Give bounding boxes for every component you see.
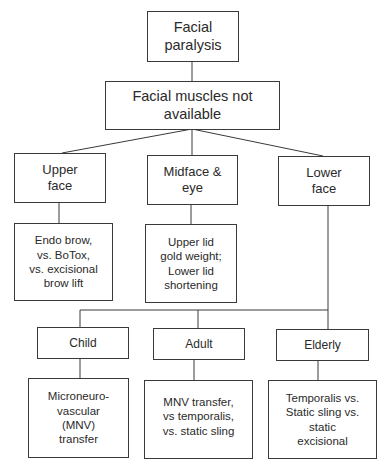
node-line: Temporalis vs. <box>286 391 360 405</box>
node-line: Lower <box>306 165 341 181</box>
node-child-treatment: Microneuro- vascular (MNV) transfer <box>28 378 129 458</box>
node-line: paralysis <box>164 37 221 55</box>
node-line: Midface & <box>164 164 222 180</box>
node-lower-face: Lower face <box>278 156 370 206</box>
node-line: vascular <box>48 404 109 418</box>
node-adult-treatment: MNV transfer, vs temporalis, vs. static … <box>144 380 253 459</box>
node-line: face <box>42 178 77 194</box>
node-line: shortening <box>160 278 221 292</box>
node-line: (MNV) <box>48 418 109 432</box>
node-line: Static sling vs. <box>286 405 360 419</box>
node-facial-paralysis: Facial paralysis <box>147 11 239 62</box>
node-line: face <box>306 181 341 197</box>
node-line: transfer <box>48 432 109 446</box>
node-line: gold weight; <box>160 249 221 263</box>
node-label: Child <box>69 336 96 351</box>
node-line: Upper <box>42 162 77 178</box>
node-line: MNV transfer, <box>163 395 235 409</box>
node-elderly-treatment: Temporalis vs. Static sling vs. static e… <box>268 380 377 459</box>
node-line: vs. static sling <box>163 424 235 438</box>
node-upper-face-treatment: Endo brow, vs. BoTox, vs. excisional bro… <box>14 223 113 301</box>
node-line: Facial <box>164 19 221 37</box>
node-line: vs temporalis, <box>163 409 235 423</box>
node-midface-eye: Midface & eye <box>147 155 238 205</box>
node-facial-muscles-not-available: Facial muscles not available <box>105 81 280 130</box>
node-midface-treatment: Upper lid gold weight; Lower lid shorten… <box>145 224 237 303</box>
node-line: Upper lid <box>160 235 221 249</box>
node-line: vs. BoTox, <box>29 248 97 262</box>
node-upper-face: Upper face <box>14 153 106 203</box>
node-line: excisional <box>286 434 360 448</box>
node-line: Lower lid <box>160 264 221 278</box>
node-line: eye <box>164 180 222 196</box>
node-label: Elderly <box>304 338 341 353</box>
node-adult: Adult <box>153 328 245 360</box>
node-label: Adult <box>185 337 212 352</box>
node-child: Child <box>37 327 129 359</box>
node-line: brow lift <box>29 276 97 290</box>
node-line: Facial muscles not <box>132 88 252 106</box>
node-line: vs. excisional <box>29 262 97 276</box>
node-line: static <box>286 420 360 434</box>
node-line: available <box>132 106 252 124</box>
node-line: Endo brow, <box>29 233 97 247</box>
node-elderly: Elderly <box>276 329 369 361</box>
node-line: Microneuro- <box>48 389 109 403</box>
